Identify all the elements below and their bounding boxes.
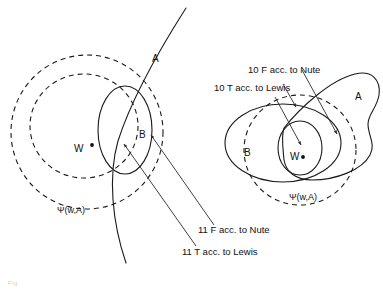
left-world-w-dot: [90, 143, 94, 147]
left-label-w: W: [74, 138, 83, 156]
right-annotation-nute-text: 10 F acc. to Nute: [248, 64, 320, 75]
right-annotation-lewis-text: 10 T acc. to Lewis: [214, 82, 290, 93]
left-label-psi: Ψ(w,A): [57, 199, 85, 217]
left-annotation-nute: 11 F acc. to Nute: [198, 219, 270, 237]
left-region-a-boundary: [112, 8, 186, 263]
left-label-a-text: A: [152, 53, 159, 64]
figure-container: A W B Ψ(w,A) 11 F acc. to Nute 11 T acc.…: [0, 0, 383, 295]
right-label-b-text: B: [244, 147, 251, 158]
left-annotation-nute-text: 11 F acc. to Nute: [198, 224, 270, 235]
right-label-psi-text: Ψ(w,A): [289, 192, 317, 202]
right-annotation-nute: 10 F acc. to Nute: [248, 59, 320, 77]
figure-caption-fragment-text: Fig: [8, 280, 18, 286]
right-label-a: A: [355, 86, 362, 104]
left-label-a: A: [152, 48, 159, 66]
right-world-w-dot: [301, 155, 305, 159]
left-label-b: B: [139, 124, 146, 142]
right-label-psi: Ψ(w,A): [289, 186, 317, 204]
right-label-b: B: [244, 142, 251, 160]
figure-caption-fragment: Fig: [8, 280, 18, 286]
left-label-psi-text: Ψ(w,A): [57, 205, 85, 215]
right-world-w-circle: [278, 121, 322, 175]
left-annotation-lewis: 11 T acc. to Lewis: [182, 241, 258, 259]
right-label-w: W: [290, 146, 299, 164]
left-label-w-text: W: [74, 143, 83, 154]
left-leader-nute: [151, 135, 214, 225]
right-leader-nute-secondary: [302, 70, 337, 134]
left-leader-lewis: [124, 144, 196, 246]
left-inner-dashed-circle: [30, 74, 138, 178]
right-label-a-text: A: [355, 91, 362, 102]
right-annotation-lewis: 10 T acc. to Lewis: [214, 77, 290, 95]
right-label-w-text: W: [290, 151, 299, 162]
left-panel-graphics: [11, 8, 214, 263]
left-annotation-lewis-text: 11 T acc. to Lewis: [182, 246, 258, 257]
left-label-b-text: B: [139, 129, 146, 140]
